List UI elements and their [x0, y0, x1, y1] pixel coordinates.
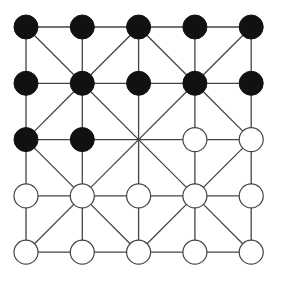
black-stone[interactable]: [14, 128, 38, 152]
black-stone[interactable]: [239, 71, 263, 95]
black-stone[interactable]: [14, 15, 38, 39]
white-stone[interactable]: [183, 128, 207, 152]
white-stone[interactable]: [127, 240, 151, 264]
black-stone[interactable]: [183, 71, 207, 95]
black-stone[interactable]: [183, 15, 207, 39]
white-stone[interactable]: [239, 128, 263, 152]
white-stone[interactable]: [14, 184, 38, 208]
white-stone[interactable]: [14, 240, 38, 264]
black-stone[interactable]: [70, 15, 94, 39]
white-stone[interactable]: [183, 184, 207, 208]
white-stone[interactable]: [239, 240, 263, 264]
black-stone[interactable]: [14, 71, 38, 95]
black-stone[interactable]: [70, 71, 94, 95]
white-stone[interactable]: [239, 184, 263, 208]
black-stone[interactable]: [127, 15, 151, 39]
black-stone[interactable]: [127, 71, 151, 95]
white-stone[interactable]: [70, 184, 94, 208]
white-stone[interactable]: [183, 240, 207, 264]
black-stone[interactable]: [70, 128, 94, 152]
board-lines: [26, 27, 251, 252]
game-board: [0, 0, 282, 284]
white-stone[interactable]: [70, 240, 94, 264]
white-stone[interactable]: [127, 184, 151, 208]
black-stone[interactable]: [239, 15, 263, 39]
